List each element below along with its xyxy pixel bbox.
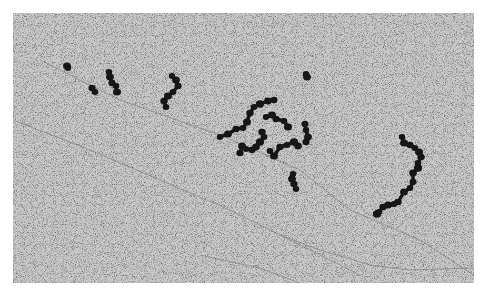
particle-link bbox=[306, 137, 308, 142]
particle-link bbox=[67, 66, 68, 68]
particle-link bbox=[294, 184, 296, 189]
particle-link bbox=[116, 86, 117, 92]
particle-link bbox=[164, 101, 166, 107]
particle-link bbox=[240, 146, 242, 153]
particle-link bbox=[306, 74, 307, 77]
particle-link bbox=[377, 212, 379, 214]
micrograph-image bbox=[0, 0, 485, 291]
micrograph-canvas bbox=[0, 0, 485, 291]
particle-link bbox=[268, 100, 274, 101]
particle-link bbox=[92, 88, 95, 92]
